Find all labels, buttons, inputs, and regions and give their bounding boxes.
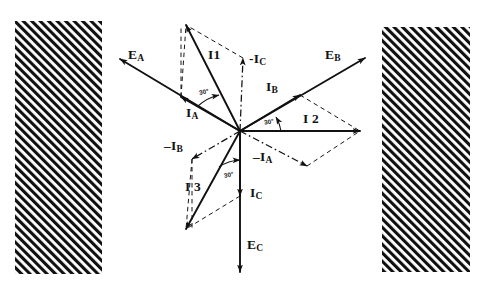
label-i1: I1 xyxy=(208,48,220,62)
angle-arc-2 xyxy=(276,117,281,131)
vector-neg-ia xyxy=(240,131,307,166)
label-eb: EB xyxy=(325,48,341,63)
label-ib: IB xyxy=(266,80,278,95)
vector-diagram-canvas xyxy=(0,0,479,292)
label-ia: IA xyxy=(186,106,198,121)
right-hatch-block xyxy=(382,27,470,272)
phasor-diagram-figure: EA EB EC IA IB IC –IA –IB -IC I1 I 2 I 3… xyxy=(0,0,479,292)
label-ea: EA xyxy=(128,48,144,63)
angle-arc-1 xyxy=(198,95,219,106)
label-neg-ia: –IA xyxy=(253,150,272,165)
construction-i2-side-b xyxy=(307,131,360,166)
label-ic: IC xyxy=(250,186,262,201)
vector-neg-ic xyxy=(240,58,243,131)
label-ec: EC xyxy=(247,238,263,253)
vector-ib xyxy=(240,95,300,131)
label-neg-ic: -IC xyxy=(249,52,266,67)
hatch-blocks xyxy=(15,21,470,274)
label-i2: I 2 xyxy=(303,112,319,126)
left-hatch-block xyxy=(15,21,102,274)
label-i3: I 3 xyxy=(185,180,201,194)
label-neg-ib: –IB xyxy=(164,139,183,154)
construction-i1-side-a xyxy=(181,25,186,97)
